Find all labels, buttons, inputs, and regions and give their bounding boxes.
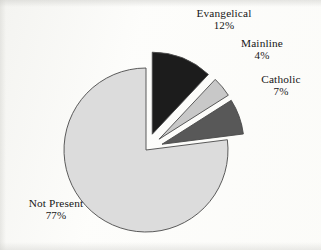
slice-label-evangelical: Evangelical 12% [178, 8, 270, 32]
slice-label-catholic-percent: 7% [244, 86, 318, 98]
slice-label-mainline: Mainline 4% [222, 38, 302, 62]
slice-label-not-present: Not Present 77% [4, 198, 108, 222]
slice-label-mainline-percent: 4% [222, 50, 302, 62]
slice-label-catholic: Catholic 7% [244, 74, 318, 98]
slice-label-evangelical-percent: 12% [178, 20, 270, 32]
slice-label-not-present-percent: 77% [4, 210, 108, 222]
pie-chart-figure: Evangelical 12% Mainline 4% Catholic 7% … [0, 0, 321, 250]
